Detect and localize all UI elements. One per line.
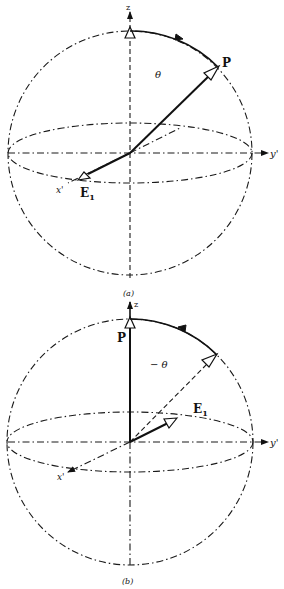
theta-label-b: − θ <box>150 359 168 370</box>
vector-E1-a <box>88 153 130 174</box>
rotation-arc-a <box>130 31 218 67</box>
x-label-b: x' <box>57 472 65 482</box>
y-label-a: y' <box>269 148 278 159</box>
former-P-arrowhead-b <box>202 354 217 367</box>
projection-line-a <box>130 128 180 153</box>
vector-E1-arrowhead-b <box>164 418 177 428</box>
P-label-b: P <box>117 331 126 345</box>
arc-arrow-a <box>175 34 183 40</box>
panel-a: z P θ y' x' E1 (a) <box>8 3 278 298</box>
y-label-b: y' <box>269 437 278 448</box>
P-label-a: P <box>222 56 231 70</box>
theta-label-a: θ <box>155 69 161 80</box>
vector-P-a <box>130 73 212 153</box>
vector-E1-b <box>130 423 168 442</box>
panel-b: z P − θ E1 y' x' (b) <box>7 300 278 586</box>
caption-b: (b) <box>122 577 133 586</box>
caption-a: (a) <box>123 289 134 298</box>
E1-label-a: E1 <box>80 186 95 202</box>
rotation-arc-b <box>130 319 217 355</box>
x-axis-b <box>68 442 130 472</box>
E1-label-b: E1 <box>193 402 208 418</box>
z-hollow-arrowhead-a <box>125 27 135 38</box>
z-label-b: z <box>134 300 138 309</box>
z-label-a: z <box>126 3 130 12</box>
figure-canvas: z P θ y' x' E1 (a) z P − θ E1 y' x' (b <box>0 0 284 589</box>
x-label-a: x' <box>56 185 64 195</box>
